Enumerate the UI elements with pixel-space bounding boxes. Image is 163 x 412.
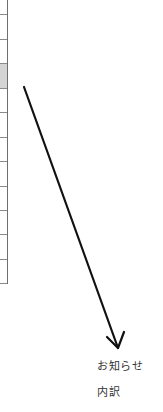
pointer-arrow-icon bbox=[0, 0, 163, 412]
label-breakdown: 内訳 bbox=[97, 383, 120, 399]
label-notice: お知らせ bbox=[97, 357, 143, 373]
